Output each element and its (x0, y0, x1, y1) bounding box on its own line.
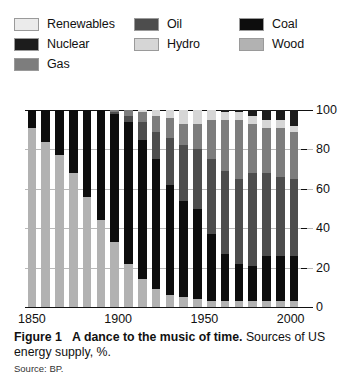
caption-title: A dance to the music of time. (72, 330, 242, 344)
bar-segment-coal (248, 266, 257, 301)
caption-source: Source: BP. (14, 363, 63, 374)
bar-segment-oil (152, 132, 161, 160)
bar-segment-gas (152, 116, 161, 132)
legend-label-renewables: Renewables (47, 17, 115, 31)
bar-segment-gas (110, 110, 119, 112)
bar-segment-wood (124, 264, 133, 307)
bar-1882[interactable] (83, 110, 92, 307)
bar-segment-gas (166, 118, 175, 138)
bar-1978[interactable] (248, 110, 257, 307)
bar-segment-coal (69, 110, 78, 173)
bar-1930[interactable] (166, 110, 175, 307)
x-axis-tick-label-1950: 1950 (190, 312, 218, 326)
bar-segment-coal (41, 110, 50, 142)
legend-item-coal[interactable]: Coal (239, 17, 344, 31)
bar-1994[interactable] (276, 110, 285, 307)
bar-segment-coal (193, 209, 202, 300)
bar-segment-hydro (235, 112, 244, 120)
legend-row: NuclearHydroWood (14, 34, 348, 54)
bar-segment-nuclear (221, 110, 230, 112)
bar-1962[interactable] (221, 110, 230, 307)
bar-1906[interactable] (124, 110, 133, 307)
bar-segment-oil (110, 112, 119, 114)
legend-swatch-wood-icon (239, 38, 264, 51)
plot-baseline (25, 307, 313, 308)
bar-1986[interactable] (262, 110, 271, 307)
bar-segment-wood (97, 220, 106, 307)
bar-1850[interactable] (28, 110, 37, 307)
bar-segment-oil (248, 173, 257, 266)
y-tick-mark-40 (301, 228, 307, 229)
bar-1954[interactable] (207, 110, 216, 307)
bar-segment-hydro (221, 112, 230, 120)
bar-segment-coal (83, 110, 92, 197)
legend-swatch-renewables-icon (14, 18, 39, 31)
legend-item-oil[interactable]: Oil (134, 17, 239, 31)
legend-label-hydro: Hydro (167, 37, 200, 51)
bar-segment-coal (179, 201, 188, 298)
y-tick-mark-80 (301, 149, 307, 150)
bar-segment-nuclear (248, 110, 257, 116)
bar-segment-coal (138, 140, 147, 280)
bar-segment-wood (166, 295, 175, 307)
bar-segment-gas (248, 124, 257, 173)
legend-label-gas: Gas (47, 57, 70, 71)
bar-1970[interactable] (235, 110, 244, 307)
bar-segment-gas (262, 128, 271, 173)
legend-item-renewables[interactable]: Renewables (14, 17, 134, 31)
bar-segment-wood (110, 242, 119, 307)
bar-group (25, 110, 301, 307)
legend-item-nuclear[interactable]: Nuclear (14, 37, 134, 51)
bar-2002[interactable] (290, 110, 299, 307)
bar-segment-nuclear (262, 110, 271, 120)
bar-1866[interactable] (55, 110, 64, 307)
bar-segment-coal (290, 256, 299, 301)
bar-segment-coal (97, 110, 106, 220)
bar-segment-gas (276, 128, 285, 177)
bar-segment-oil (166, 138, 175, 185)
bar-segment-hydro (276, 120, 285, 128)
bar-1914[interactable] (138, 110, 147, 307)
bar-segment-hydro (179, 110, 188, 124)
figure-caption: Figure 1 A dance to the music of time. S… (14, 330, 352, 360)
legend-swatch-nuclear-icon (14, 38, 39, 51)
y-axis-tick-label-100: 100 (316, 103, 337, 117)
bar-segment-coal (221, 254, 230, 301)
legend-swatch-coal-icon (239, 18, 264, 31)
bar-1946[interactable] (193, 110, 202, 307)
bar-1922[interactable] (152, 110, 161, 307)
bar-segment-oil (290, 179, 299, 256)
x-axis-tick-label-2000: 2000 (277, 312, 305, 326)
legend-item-wood[interactable]: Wood (239, 37, 344, 51)
x-axis-labels: 1850190019502000 (0, 312, 360, 330)
bar-segment-oil (138, 122, 147, 140)
legend-swatch-oil-icon (134, 18, 159, 31)
legend-item-hydro[interactable]: Hydro (134, 37, 239, 51)
bar-1938[interactable] (179, 110, 188, 307)
bar-segment-wood (193, 299, 202, 307)
bar-segment-coal (166, 185, 175, 295)
bar-segment-coal (235, 264, 244, 301)
legend-swatch-gas-icon (14, 58, 39, 71)
bar-segment-hydro (290, 126, 299, 132)
bar-segment-coal (262, 256, 271, 301)
bar-1858[interactable] (41, 110, 50, 307)
bar-segment-wood (152, 289, 161, 307)
bar-segment-hydro (262, 120, 271, 128)
bar-segment-gas (290, 132, 299, 179)
x-axis-tick-label-1850: 1850 (18, 312, 46, 326)
y-axis-tick-label-20: 20 (316, 261, 330, 275)
bar-segment-coal (124, 122, 133, 264)
plot-area: 020406080100 1850190019502000 (0, 103, 360, 315)
chart-legend: RenewablesOilCoalNuclearHydroWoodGas (14, 14, 348, 74)
legend-item-gas[interactable]: Gas (14, 57, 134, 71)
bar-1898[interactable] (110, 110, 119, 307)
bar-segment-wood (28, 128, 37, 307)
bar-segment-coal (55, 110, 64, 155)
y-axis-tick-label-80: 80 (316, 142, 330, 156)
bar-segment-wood (83, 197, 92, 307)
bar-1874[interactable] (69, 110, 78, 307)
bar-segment-gas (179, 124, 188, 146)
bar-segment-coal (28, 110, 37, 128)
bar-1890[interactable] (97, 110, 106, 307)
